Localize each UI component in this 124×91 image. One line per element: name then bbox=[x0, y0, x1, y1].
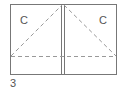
figure-number: 3 bbox=[10, 78, 16, 89]
right-diagonal-fold bbox=[64, 5, 116, 56]
panel-label-left: C bbox=[20, 15, 28, 26]
panel-label-right: C bbox=[99, 15, 107, 26]
left-diagonal-fold bbox=[11, 5, 62, 56]
